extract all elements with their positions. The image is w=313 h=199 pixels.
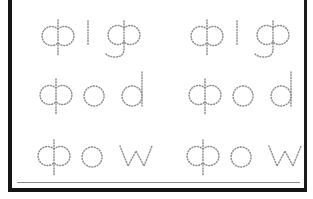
- tracing-word-pig[interactable]: pig: [199, 4, 309, 62]
- tracing-cell[interactable]: pow: [159, 122, 306, 184]
- tracing-grid: pig pig: [12, 0, 305, 191]
- tracing-word-pig[interactable]: pig: [50, 4, 160, 62]
- tracing-word-pow[interactable]: pow: [50, 124, 160, 182]
- tracing-cell[interactable]: pig: [12, 2, 159, 64]
- tracing-cell[interactable]: pod: [159, 61, 306, 123]
- worksheet-page: pig pig: [0, 0, 313, 199]
- tracing-row: pod pod: [12, 61, 305, 123]
- tracing-cell[interactable]: pig: [159, 2, 306, 64]
- tracing-word-pow[interactable]: pow: [199, 124, 309, 182]
- tracing-cell[interactable]: pod: [12, 61, 159, 123]
- tracing-row: pig pig: [12, 2, 305, 64]
- tracing-word-pod[interactable]: pod: [50, 63, 160, 121]
- tracing-cell[interactable]: pow: [12, 122, 159, 184]
- tracing-word-pod[interactable]: pod: [199, 63, 309, 121]
- tracing-row: pow pow: [12, 122, 305, 184]
